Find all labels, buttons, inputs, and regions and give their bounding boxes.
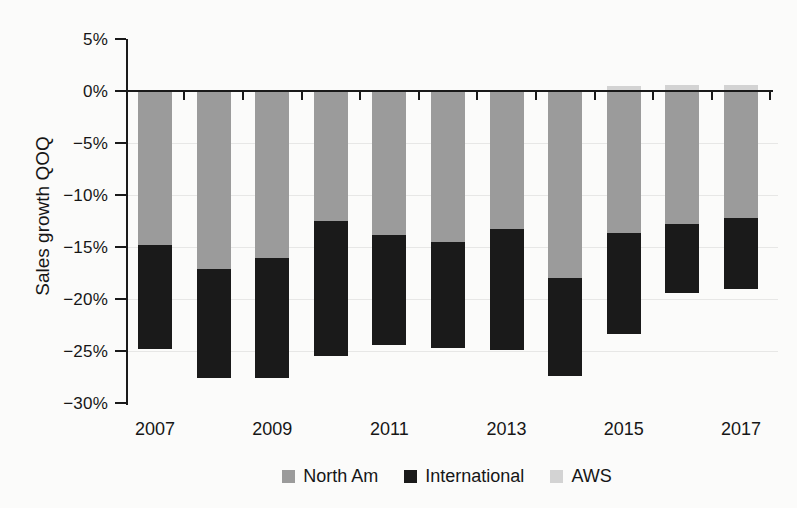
y-axis-tick (115, 38, 126, 40)
bar-segment-international (314, 221, 348, 356)
y-tick-label: −15% (12, 239, 108, 256)
x-axis-tick (711, 92, 713, 100)
y-tick-label: −25% (12, 343, 108, 360)
y-tick-label: −10% (12, 187, 108, 204)
legend: North AmInternationalAWS (122, 466, 772, 487)
bar-segment-international (138, 245, 172, 349)
x-axis-tick (535, 92, 537, 100)
x-tick-label: 2013 (467, 420, 547, 438)
legend-swatch-icon (550, 470, 563, 483)
bar-segment-north-am (314, 91, 348, 221)
y-tick-label: 0% (12, 83, 108, 100)
y-axis-line (126, 39, 128, 405)
bar-segment-north-am (490, 91, 524, 229)
legend-item-international: International (404, 466, 524, 487)
y-axis-tick (115, 402, 126, 404)
bar-segment-north-am (665, 91, 699, 224)
bar-segment-international (607, 233, 641, 334)
legend-label: International (425, 466, 524, 487)
legend-swatch-icon (282, 470, 295, 483)
bar-segment-international (255, 258, 289, 378)
x-tick-label: 2011 (349, 420, 429, 438)
y-axis-tick (115, 90, 126, 92)
x-axis-tick (418, 92, 420, 100)
x-axis-tick (359, 92, 361, 100)
bar-segment-international (431, 242, 465, 348)
bar-segment-north-am (724, 91, 758, 218)
chart-figure: 5%0%−5%−10%−15%−20%−25%−30%2007200920112… (0, 0, 797, 508)
bar-segment-north-am (138, 91, 172, 245)
bar-segment-international (548, 278, 582, 376)
legend-item-north-am: North Am (282, 466, 378, 487)
bar-segment-international (665, 224, 699, 293)
x-tick-label: 2015 (584, 420, 664, 438)
legend-swatch-icon (404, 470, 417, 483)
x-axis-tick (301, 92, 303, 100)
legend-item-aws: AWS (550, 466, 611, 487)
y-axis-tick (115, 298, 126, 300)
x-axis-tick (242, 92, 244, 100)
y-axis-title: Sales growth QOQ (32, 136, 54, 295)
bar-segment-north-am (255, 91, 289, 258)
bar-segment-international (197, 269, 231, 378)
x-tick-label: 2007 (115, 420, 195, 438)
y-tick-label: −5% (12, 135, 108, 152)
bar-segment-north-am (372, 91, 406, 235)
legend-label: AWS (571, 466, 611, 487)
x-tick-label: 2017 (701, 420, 781, 438)
bar-segment-international (372, 235, 406, 345)
x-axis-tick (594, 92, 596, 100)
bar-segment-north-am (197, 91, 231, 269)
y-axis-tick (115, 142, 126, 144)
bar-segment-international (724, 218, 758, 289)
y-axis-tick (115, 246, 126, 248)
x-axis-line (126, 90, 773, 92)
x-axis-tick (769, 92, 771, 100)
y-axis-tick (115, 350, 126, 352)
x-axis-tick (183, 92, 185, 100)
y-tick-label: −30% (12, 395, 108, 412)
x-tick-label: 2009 (232, 420, 312, 438)
y-axis-tick (115, 194, 126, 196)
x-axis-tick (652, 92, 654, 100)
plot-area: 5%0%−5%−10%−15%−20%−25%−30%2007200920112… (0, 0, 797, 508)
y-tick-label: 5% (12, 31, 108, 48)
bar-segment-north-am (431, 91, 465, 242)
bar-segment-north-am (548, 91, 582, 278)
x-axis-tick (476, 92, 478, 100)
bar-segment-international (490, 229, 524, 350)
bar-segment-north-am (607, 91, 641, 233)
legend-label: North Am (303, 466, 378, 487)
y-tick-label: −20% (12, 291, 108, 308)
